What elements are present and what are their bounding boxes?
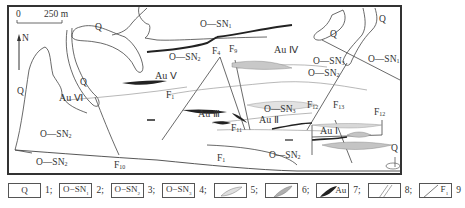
legend-swatch-orebody-icon: Au — [316, 183, 349, 198]
scale-bar-start: 0 — [16, 10, 21, 20]
unit-label-osn2: O—SN2 — [40, 130, 72, 140]
geological-map: 0 250 m N Q Q Q Q Q Q O—SN1 O—SN1 O—SN2 … — [7, 5, 402, 175]
ore-body-label-au1: Au Ⅰ — [320, 126, 338, 136]
fault-label-f12: F12 — [374, 108, 385, 118]
unit-label-osn1: O—SN1 — [200, 20, 232, 30]
map-legend: Q 1; O−SN1 2; O−SN2 3; O−SN3 4; 5; 6; Au… — [8, 180, 403, 200]
legend-item-osn1: O−SN1 2; — [59, 183, 107, 198]
ore-body-label-au3: Au Ⅲ — [198, 109, 220, 119]
unit-label-osn2: O—SN2 — [169, 53, 201, 63]
fault-label-f1: F1 — [217, 154, 225, 164]
legend-swatch-gray-lens-icon — [265, 183, 298, 198]
unit-label-q: Q — [379, 15, 386, 25]
unit-label-q: Q — [391, 144, 398, 154]
legend-item-fault: F1 9 — [419, 183, 465, 198]
fault-label-f12: F12 — [307, 101, 318, 111]
fault-label-f1: F1 — [166, 91, 174, 101]
legend-item-light-vein: 5; — [214, 183, 262, 198]
map-linework — [7, 5, 402, 175]
ore-body-label-au5: Au Ⅴ — [155, 71, 177, 81]
scale-bar-end: 250 m — [44, 10, 68, 20]
legend-swatch: O−SN3 — [162, 183, 195, 198]
unit-label-osn3: O—SN3 — [313, 57, 345, 67]
fault-label-f4: F4 — [212, 47, 220, 57]
legend-swatch: O−SN1 — [59, 183, 92, 198]
fault-label-f13: F13 — [333, 101, 344, 111]
unit-label-q: Q — [17, 87, 24, 97]
legend-swatch-double-line-icon — [368, 183, 401, 198]
legend-item-osn3: O−SN3 4; — [162, 183, 210, 198]
ore-body-label-au2: Au Ⅱ — [259, 115, 279, 125]
legend-swatch: O−SN2 — [111, 183, 144, 198]
legend-item-osn2: O−SN2 3; — [111, 183, 159, 198]
fault-label-f9: F9 — [229, 45, 237, 55]
legend-swatch-fault-icon: F1 — [419, 183, 452, 198]
unit-label-q: Q — [95, 23, 102, 33]
legend-item-medium-vein: 6; — [265, 183, 313, 198]
unit-label-osn2: O—SN2 — [308, 69, 340, 79]
fault-label-f10: F10 — [114, 161, 125, 171]
legend-item-dike: 8; — [368, 183, 416, 198]
legend-item-gold-orebody: Au 7; — [316, 183, 364, 198]
unit-label-q: Q — [330, 30, 337, 40]
fault-label-f11: F11 — [231, 124, 242, 134]
north-arrow-label: N — [22, 34, 29, 44]
unit-label-osn1: O—SN1 — [368, 55, 400, 65]
unit-label-osn2: O—SN2 — [269, 151, 301, 161]
legend-item-quaternary: Q 1; — [8, 183, 56, 198]
unit-label-q: Q — [80, 78, 87, 88]
legend-swatch-light-lens-icon — [214, 183, 247, 198]
ore-body-label-au4: Au Ⅳ — [274, 45, 298, 55]
legend-swatch: Q — [8, 183, 41, 198]
unit-label-osn2: O—SN2 — [36, 158, 68, 168]
ore-body-label-au6: Au Ⅵ — [59, 93, 83, 103]
